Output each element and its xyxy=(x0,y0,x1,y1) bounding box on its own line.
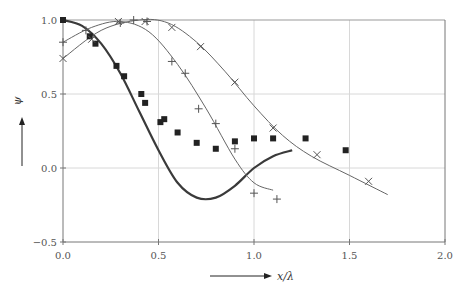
x-axis-label-group: x/λ xyxy=(210,270,294,283)
square-marker xyxy=(161,116,167,122)
square-marker xyxy=(113,63,119,69)
plus-marker xyxy=(195,105,203,113)
square-marker xyxy=(121,73,127,79)
cross-marker xyxy=(314,151,321,158)
cross-marker xyxy=(365,178,372,185)
x-tick-label: 0.0 xyxy=(55,250,71,261)
plus-marker xyxy=(59,38,67,46)
plus-marker xyxy=(273,195,281,203)
square-marker xyxy=(303,135,309,141)
square-marker xyxy=(194,140,200,146)
y-axis-label: ψ xyxy=(11,96,24,105)
grid-lines xyxy=(63,20,445,242)
square-marker xyxy=(213,146,219,152)
square-marker xyxy=(270,135,276,141)
cross-marker xyxy=(197,43,204,50)
square-marker xyxy=(343,147,349,153)
square-marker xyxy=(232,138,238,144)
square-marker xyxy=(142,100,148,106)
x-tick-label: 1.0 xyxy=(246,250,262,261)
axes xyxy=(60,20,445,245)
plus-marker xyxy=(231,145,239,153)
square-marker xyxy=(175,129,181,135)
y-tick-label: 1.0 xyxy=(41,15,57,26)
x-tick-label: 0.5 xyxy=(151,250,167,261)
square-marker xyxy=(60,17,66,23)
plus-marker xyxy=(168,57,176,65)
x-arrowhead-icon xyxy=(264,273,272,279)
square-marker xyxy=(138,91,144,97)
x-tick-label: 2.0 xyxy=(437,250,453,261)
y-axis-label-group: ψ xyxy=(11,96,25,166)
thin-curve-plus xyxy=(63,21,273,190)
square-marker xyxy=(251,135,257,141)
plus-marker xyxy=(250,189,258,197)
y-tick-label: 0.0 xyxy=(41,163,57,174)
y-arrowhead-icon xyxy=(19,117,25,125)
data-series xyxy=(59,16,388,203)
y-tick-label: 0.5 xyxy=(41,89,57,100)
x-tick-label: 1.5 xyxy=(342,250,358,261)
y-tick-label: −0.5 xyxy=(33,237,57,248)
chart: 0.00.51.01.52.01.00.50.0−0.5 ψ x/λ xyxy=(0,0,466,294)
plus-marker xyxy=(143,17,151,25)
x-axis-label: x/λ xyxy=(277,270,294,283)
cross-marker xyxy=(231,79,238,86)
tick-labels: 0.00.51.01.52.01.00.50.0−0.5 xyxy=(33,15,453,261)
